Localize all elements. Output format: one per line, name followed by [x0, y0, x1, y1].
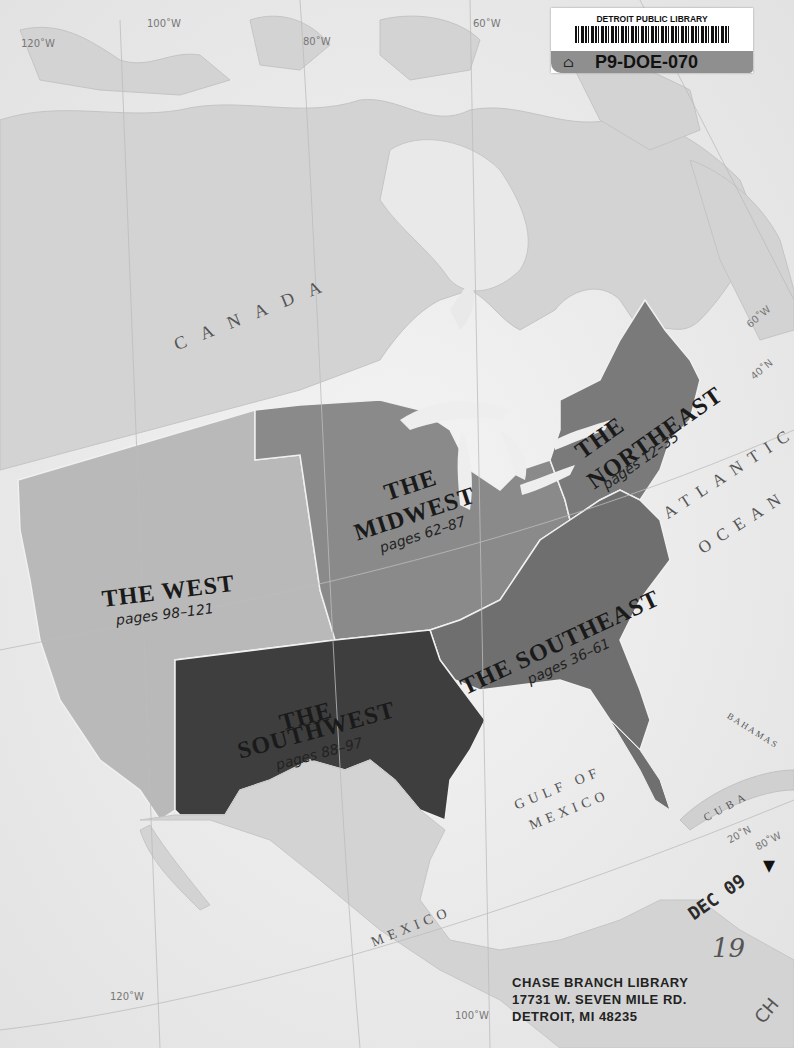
library-name: DETROIT PUBLIC LIBRARY: [551, 14, 753, 24]
barcode-id-band: ⌂ P9-DOE-070: [551, 51, 753, 73]
graticule-label-120w-bottom: 120˚W: [110, 991, 144, 1002]
address-line-2: 17731 W. SEVEN MILE RD.: [512, 991, 688, 1008]
address-line-3: DETROIT, MI 48235: [512, 1008, 688, 1025]
ink-mark: ▼: [763, 853, 775, 877]
graticule-label-80w-top: 80˚W: [303, 36, 331, 47]
library-logo-icon: ⌂: [563, 54, 574, 70]
handwritten-mark: 19: [712, 933, 745, 963]
library-barcode-label: DETROIT PUBLIC LIBRARY ⌂ P9-DOE-070: [551, 8, 753, 73]
address-line-1: CHASE BRANCH LIBRARY: [512, 974, 688, 991]
graticule-label-100w-top: 100˚W: [147, 18, 181, 29]
graticule-label-100w-bottom: 100˚W: [455, 1010, 489, 1021]
barcode: [575, 26, 729, 43]
graticule-label-60w-top: 60˚W: [473, 18, 501, 29]
graticule-label-120w-top: 120˚W: [21, 38, 55, 49]
barcode-id: P9-DOE-070: [595, 52, 698, 73]
branch-address-stamp: CHASE BRANCH LIBRARY 17731 W. SEVEN MILE…: [512, 974, 688, 1025]
